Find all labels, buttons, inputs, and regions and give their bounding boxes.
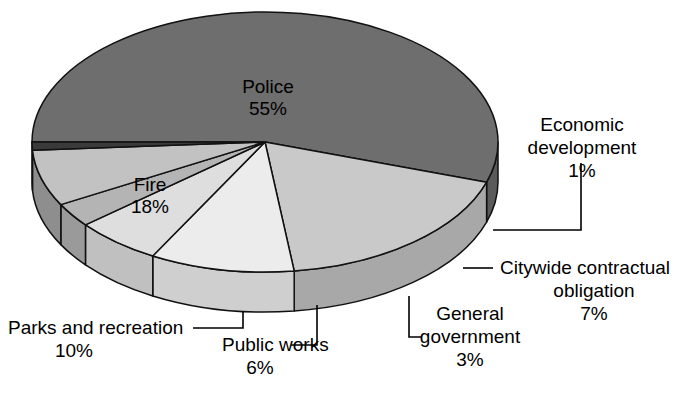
pie-geometry [32, 12, 498, 312]
public-works-label: Public works [222, 334, 329, 355]
economic-development-label-2: development [528, 137, 638, 158]
general-government-label-2: government [420, 326, 521, 347]
citywide-label-2: obligation [553, 280, 634, 301]
pie-chart-svg: Police 55% Fire 18% Parks and recreation… [0, 0, 692, 397]
police-value: 55% [249, 98, 287, 119]
pie-chart-figure: Police 55% Fire 18% Parks and recreation… [0, 0, 692, 397]
economic-development-value: 1% [568, 160, 596, 181]
general-government-label-1: General [436, 303, 504, 324]
fire-label: Fire [134, 174, 167, 195]
citywide-value: 7% [580, 303, 608, 324]
fire-value: 18% [131, 196, 169, 217]
public-works-value: 6% [246, 357, 274, 378]
general-government-value: 3% [456, 349, 484, 370]
economic-development-label-1: Economic [540, 114, 623, 135]
parks-leader-line [193, 311, 243, 328]
citywide-label-1: Citywide contractual [500, 257, 670, 278]
parks-label: Parks and recreation [8, 317, 183, 338]
parks-value: 10% [55, 340, 93, 361]
police-label: Police [242, 76, 294, 97]
